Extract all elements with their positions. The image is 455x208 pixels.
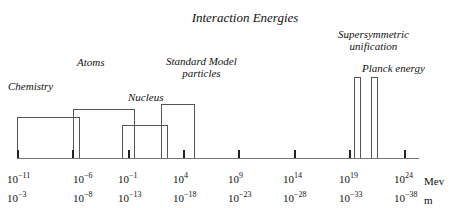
energy-tick-label: 109 — [228, 173, 243, 185]
length-unit-label: m — [424, 194, 433, 206]
energy-axis-line — [17, 158, 419, 159]
diagram-title: Interaction Energies — [0, 10, 455, 26]
length-tick-label: 10−33 — [339, 192, 363, 204]
range-box-chemistry — [17, 117, 80, 158]
label-nucleus: Nucleus — [128, 91, 163, 103]
energy-tick-label: 104 — [173, 173, 188, 185]
range-box-supersymmetric — [354, 77, 361, 158]
length-tick-label: 10−8 — [73, 192, 93, 204]
label-planck: Planck energy — [362, 62, 425, 74]
axis-tick — [294, 150, 296, 158]
label-chemistry: Chemistry — [8, 80, 53, 92]
energy-unit-label: Mev — [424, 175, 444, 187]
axis-tick — [238, 150, 240, 158]
label-atoms: Atoms — [77, 56, 105, 68]
axis-tick — [183, 150, 185, 158]
energy-tick-label: 1019 — [339, 173, 358, 185]
energy-tick-label: 10−6 — [73, 173, 93, 185]
axis-tick — [128, 150, 130, 158]
axis-tick — [349, 150, 351, 158]
energy-tick-label: 10−11 — [7, 173, 30, 185]
label-standard-model-line1: Standard Model — [166, 55, 237, 67]
label-susy-line2: unification — [338, 40, 409, 52]
range-box-standard-model — [161, 104, 195, 158]
label-supersymmetric: Supersymmetric unification — [338, 28, 409, 52]
length-tick-label: 10−18 — [173, 192, 197, 204]
length-tick-label: 10−23 — [228, 192, 252, 204]
label-standard-model: Standard Model particles — [166, 55, 237, 79]
energy-tick-label: 1014 — [283, 173, 302, 185]
label-standard-model-line2: particles — [166, 67, 237, 79]
range-box-planck — [371, 77, 378, 158]
label-susy-line1: Supersymmetric — [338, 28, 409, 40]
length-tick-label: 10−38 — [394, 192, 418, 204]
length-tick-label: 10−3 — [7, 192, 27, 204]
axis-tick — [72, 150, 74, 158]
length-tick-label: 10−13 — [118, 192, 142, 204]
energy-tick-label: 1024 — [394, 173, 413, 185]
axis-tick — [404, 150, 406, 158]
energy-tick-label: 10−1 — [118, 173, 138, 185]
axis-tick — [17, 150, 19, 158]
length-tick-label: 10−28 — [283, 192, 307, 204]
